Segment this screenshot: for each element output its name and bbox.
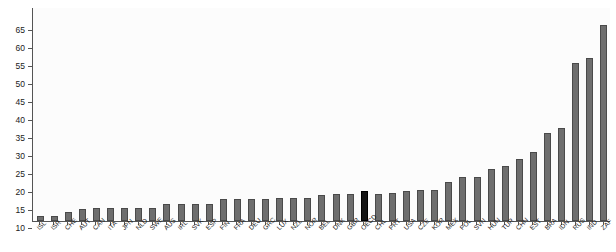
y-axis-tick-label: 45 (16, 98, 25, 107)
bar[interactable] (417, 190, 424, 221)
bar-slot (103, 8, 117, 221)
bar-slot (442, 8, 456, 221)
x-axis-tick-label: IRL (177, 220, 189, 232)
bar[interactable] (459, 177, 466, 221)
y-axis-tick-label: 60 (16, 44, 25, 53)
bar[interactable] (600, 25, 607, 221)
bar-slot (569, 8, 583, 221)
bar[interactable] (318, 195, 325, 221)
x-axis-tick-label: ITA (107, 220, 119, 232)
bar-slot (371, 8, 385, 221)
bar-slot (470, 8, 484, 221)
bar-slot (188, 8, 202, 221)
bar-slot (118, 8, 132, 221)
bar-slot (343, 8, 357, 221)
bar-series (33, 8, 610, 221)
bar-slot (287, 8, 301, 221)
y-axis: 656055504540353025201510 (0, 0, 32, 252)
bar-slot (414, 8, 428, 221)
x-axis-tick-label: ISL (36, 220, 48, 232)
bar[interactable] (544, 133, 551, 221)
bar-slot (484, 8, 498, 221)
chart-title (0, 0, 616, 3)
y-axis-tick-label: 10 (16, 224, 25, 233)
bar-slot (146, 8, 160, 221)
y-axis-tick-label: 35 (16, 134, 25, 143)
bar[interactable] (403, 191, 410, 221)
x-axis-tick-label: ISR (50, 219, 62, 231)
bar[interactable] (516, 159, 523, 221)
bar-slot (329, 8, 343, 221)
bar-slot (597, 8, 610, 221)
y-axis-tick-label: 25 (16, 170, 25, 179)
bar-slot (174, 8, 188, 221)
bar-slot (33, 8, 47, 221)
bar-slot (301, 8, 315, 221)
bar[interactable] (502, 166, 509, 221)
bar-slot (512, 8, 526, 221)
y-axis-tick-label: 30 (16, 152, 25, 161)
bar-slot (244, 8, 258, 221)
bar[interactable] (586, 58, 593, 221)
bar-slot (47, 8, 61, 221)
bar-slot (555, 8, 569, 221)
y-axis-tick-label: 65 (16, 26, 25, 35)
bar-slot (583, 8, 597, 221)
bar[interactable] (333, 194, 340, 221)
bar[interactable] (431, 190, 438, 221)
bar-slot (75, 8, 89, 221)
bar-slot (428, 8, 442, 221)
bar-slot (456, 8, 470, 221)
bar-slot (400, 8, 414, 221)
bar-slot (132, 8, 146, 221)
bar[interactable] (488, 169, 495, 221)
x-axis: ISLISRCHEAUTCANITAJPNNLDSWEAUSIRLSVKESPF… (32, 222, 610, 252)
bar-slot (357, 8, 371, 221)
bar-slot (61, 8, 75, 221)
y-axis-tick-label: 15 (16, 206, 25, 215)
bar[interactable] (347, 194, 354, 221)
bar-slot (89, 8, 103, 221)
bar-slot (216, 8, 230, 221)
bar-slot (202, 8, 216, 221)
bar-slot (541, 8, 555, 221)
plot-area (32, 8, 610, 222)
bar-highlight-oecd[interactable] (361, 191, 368, 221)
bar-slot (498, 8, 512, 221)
y-axis-tick-label: 20 (16, 188, 25, 197)
bar-slot (526, 8, 540, 221)
bar-slot (385, 8, 399, 221)
bar-slot (259, 8, 273, 221)
bar[interactable] (558, 128, 565, 221)
bar[interactable] (474, 177, 481, 221)
x-axis-tick-label: FIN (219, 219, 231, 231)
bar-slot (160, 8, 174, 221)
bar[interactable] (572, 63, 579, 221)
y-axis-tick-label: 50 (16, 80, 25, 89)
y-axis-tick-label: 40 (16, 116, 25, 125)
bar[interactable] (445, 182, 452, 221)
y-axis-tick-label: 55 (16, 62, 25, 71)
bar[interactable] (530, 152, 537, 221)
bar-slot (273, 8, 287, 221)
bar-chart: 656055504540353025201510 ISLISRCHEAUTCAN… (0, 0, 616, 252)
bar-slot (315, 8, 329, 221)
bar-slot (230, 8, 244, 221)
